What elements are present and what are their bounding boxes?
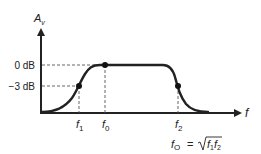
f0-peak-point xyxy=(102,62,108,68)
x-axis-label: f xyxy=(245,106,250,120)
minus3-db-label: −3 dB xyxy=(9,81,36,92)
f2-cutoff-point xyxy=(175,83,181,89)
response-curve xyxy=(42,65,208,112)
svg-text:fO: fO xyxy=(171,138,180,152)
f1-cutoff-point xyxy=(76,83,82,89)
f2-label: f2 xyxy=(175,118,183,133)
f1-label: f1 xyxy=(76,118,84,133)
svg-text:f1f2: f1f2 xyxy=(207,138,221,151)
f0-label: f0 xyxy=(102,118,110,133)
center-frequency-formula: fO = f1f2 xyxy=(171,137,222,152)
svg-text:=: = xyxy=(187,138,193,150)
bandpass-response-diagram: Av f 0 dB −3 dB f1 f0 f2 fO xyxy=(0,0,261,154)
y-axis-label: Av xyxy=(33,12,45,26)
zero-db-label: 0 dB xyxy=(14,60,35,71)
